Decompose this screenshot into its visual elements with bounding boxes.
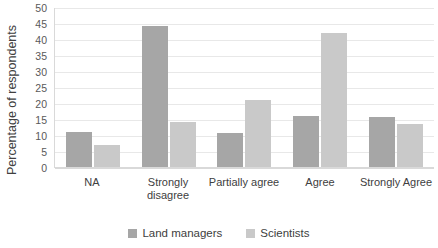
legend-label: Land managers xyxy=(142,227,222,239)
y-axis-tick-label: 35 xyxy=(35,50,47,62)
legend-label: Scientists xyxy=(260,227,309,239)
bar[interactable] xyxy=(170,122,196,167)
bar[interactable] xyxy=(293,116,319,167)
y-axis-title: Percentage of respondents xyxy=(0,0,24,200)
x-axis-category-label: Strongly Agree xyxy=(358,172,434,212)
legend-swatch-icon xyxy=(128,229,137,238)
chart-legend: Land managersScientists xyxy=(0,222,438,244)
y-axis-tick-label: 20 xyxy=(35,98,47,110)
y-axis-tick-label: 50 xyxy=(35,2,47,14)
legend-item[interactable]: Land managers xyxy=(128,227,222,239)
x-axis-category-label: Partially agree xyxy=(206,172,282,212)
bar-group xyxy=(207,8,283,167)
y-axis-tick-label: 25 xyxy=(35,82,47,94)
gridline xyxy=(55,168,434,169)
y-axis-tick-label: 40 xyxy=(35,34,47,46)
bar-group xyxy=(282,8,358,167)
legend-item[interactable]: Scientists xyxy=(246,227,309,239)
x-axis-category-labels: NAStrongly disagreePartially agreeAgreeS… xyxy=(54,172,434,212)
y-axis-tick-label: 10 xyxy=(35,130,47,142)
x-axis-category-label: Agree xyxy=(282,172,358,212)
bar-group xyxy=(131,8,207,167)
bar[interactable] xyxy=(321,33,347,167)
y-axis-tick-label: 15 xyxy=(35,114,47,126)
plot-area xyxy=(54,8,434,168)
bar-group xyxy=(55,8,131,167)
legend-swatch-icon xyxy=(246,229,255,238)
bar-chart: Percentage of respondents 05101520253035… xyxy=(0,0,438,248)
bar[interactable] xyxy=(94,145,120,167)
y-axis-tick-labels: 05101520253035404550 xyxy=(24,8,50,168)
x-axis-category-label: NA xyxy=(54,172,130,212)
x-axis-category-label: Strongly disagree xyxy=(130,172,206,212)
y-axis-tick-label: 45 xyxy=(35,18,47,30)
bar[interactable] xyxy=(245,100,271,167)
bar[interactable] xyxy=(66,132,92,167)
bar[interactable] xyxy=(142,26,168,167)
bar[interactable] xyxy=(397,124,423,167)
bar[interactable] xyxy=(217,133,243,167)
y-axis-tick-label: 30 xyxy=(35,66,47,78)
y-axis-title-text: Percentage of respondents xyxy=(5,25,19,175)
y-axis-tick-label: 0 xyxy=(41,162,47,174)
plot-wrapper: 05101520253035404550 xyxy=(24,8,438,180)
y-axis-tick-label: 5 xyxy=(41,146,47,158)
bars-layer xyxy=(55,8,434,167)
bar[interactable] xyxy=(369,117,395,167)
bar-group xyxy=(358,8,434,167)
